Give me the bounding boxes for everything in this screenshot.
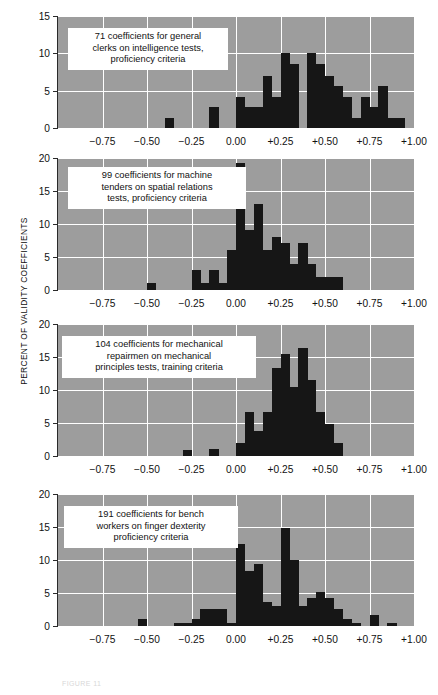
histogram-bar bbox=[236, 97, 245, 128]
x-axis-tick-label: +0.75 bbox=[357, 298, 383, 309]
histogram-bar bbox=[387, 623, 396, 626]
y-axis-tick-label: 10 bbox=[18, 219, 50, 230]
y-axis-tick-label: 5 bbox=[18, 252, 50, 263]
x-axis-tick-label: +0.25 bbox=[268, 634, 294, 645]
panel-callout-label: 71 coefficients for general clerks on in… bbox=[68, 28, 228, 70]
histogram-bar bbox=[298, 606, 307, 626]
gridline-horizontal bbox=[58, 494, 414, 495]
panel-callout-label: 104 coefficients for mechanical repairme… bbox=[62, 336, 256, 378]
y-axis-tick bbox=[53, 91, 58, 92]
histogram-bar bbox=[165, 118, 174, 128]
y-axis-tick bbox=[53, 626, 58, 627]
y-axis-tick bbox=[53, 224, 58, 225]
histogram-bar bbox=[200, 283, 209, 290]
histogram-bar bbox=[325, 424, 334, 456]
x-axis-tick-label: 0.00 bbox=[226, 298, 246, 309]
y-axis-tick bbox=[53, 128, 58, 129]
histogram-bar bbox=[254, 564, 263, 626]
histogram-bar bbox=[183, 450, 192, 456]
histogram-bar bbox=[334, 86, 343, 128]
histogram-bar bbox=[272, 97, 281, 128]
histogram-bar bbox=[192, 619, 201, 626]
histogram-bar bbox=[218, 609, 227, 626]
x-axis-tick-label: +0.50 bbox=[312, 634, 338, 645]
histogram-bar bbox=[236, 544, 245, 626]
gridline-horizontal bbox=[58, 16, 414, 17]
y-axis-spine bbox=[57, 16, 58, 128]
histogram-bar bbox=[298, 348, 307, 456]
histogram-bar bbox=[174, 623, 183, 626]
panel-callout-label: 99 coefficients for machine tenders on s… bbox=[68, 167, 246, 209]
y-axis-tick bbox=[53, 53, 58, 54]
x-axis-tick-label: 0.00 bbox=[226, 634, 246, 645]
histogram-bar bbox=[272, 606, 281, 626]
histogram-bar bbox=[316, 592, 325, 626]
histogram-bar bbox=[289, 64, 298, 128]
histogram-bar bbox=[396, 118, 405, 128]
histogram-bar bbox=[387, 118, 396, 128]
histogram-bar bbox=[298, 243, 307, 290]
x-axis-tick-label: −0.25 bbox=[179, 634, 205, 645]
histogram-bar bbox=[325, 598, 334, 626]
histogram-bar bbox=[245, 107, 254, 128]
y-axis-tick bbox=[53, 456, 58, 457]
histogram-bar bbox=[316, 277, 325, 290]
y-axis-tick bbox=[53, 423, 58, 424]
histogram-bar bbox=[183, 623, 192, 626]
x-axis-tick-label: −0.25 bbox=[179, 136, 205, 147]
y-axis-tick bbox=[53, 494, 58, 495]
x-axis-tick-label: −0.75 bbox=[90, 136, 116, 147]
x-axis-tick-label: −0.25 bbox=[179, 464, 205, 475]
histogram-bar bbox=[254, 431, 263, 456]
y-axis-tick-label: 5 bbox=[18, 85, 50, 96]
x-axis-tick-label: +0.25 bbox=[268, 298, 294, 309]
histogram-bar bbox=[334, 609, 343, 626]
y-axis-tick bbox=[53, 357, 58, 358]
y-axis-tick bbox=[53, 324, 58, 325]
x-axis-tick-label: +0.75 bbox=[357, 136, 383, 147]
histogram-bar bbox=[352, 118, 361, 128]
y-axis-tick-label: 20 bbox=[18, 153, 50, 164]
histogram-bar bbox=[272, 237, 281, 290]
y-axis-tick bbox=[53, 290, 58, 291]
y-axis-tick-label: 15 bbox=[18, 186, 50, 197]
gridline-horizontal bbox=[58, 324, 414, 325]
figure-root: PERCENT OF VALIDITY COEFFICIENTS 051015−… bbox=[0, 0, 438, 695]
x-axis-tick-label: 0.00 bbox=[226, 464, 246, 475]
x-axis-tick-label: −0.50 bbox=[134, 634, 160, 645]
gridline-horizontal bbox=[58, 158, 414, 159]
y-axis-tick bbox=[53, 527, 58, 528]
histogram-bar bbox=[370, 615, 379, 626]
histogram-bar bbox=[200, 609, 209, 626]
x-axis-tick-label: −0.25 bbox=[179, 298, 205, 309]
histogram-bar bbox=[307, 598, 316, 626]
histogram-bar bbox=[254, 204, 263, 290]
histogram-bar bbox=[263, 602, 272, 626]
histogram-bar bbox=[289, 387, 298, 456]
x-axis-tick-label: −0.75 bbox=[90, 464, 116, 475]
x-axis-tick-label: −0.50 bbox=[134, 464, 160, 475]
histogram-bar bbox=[352, 623, 361, 626]
histogram-bar bbox=[227, 250, 236, 290]
histogram-bar bbox=[209, 449, 218, 456]
x-axis-tick-label: +1.00 bbox=[401, 298, 427, 309]
histogram-bar bbox=[245, 571, 254, 626]
y-axis-tick bbox=[53, 16, 58, 17]
x-axis-tick-label: −0.50 bbox=[134, 298, 160, 309]
y-axis-tick bbox=[53, 560, 58, 561]
histogram-bar bbox=[361, 97, 370, 128]
histogram-bar bbox=[263, 76, 272, 128]
panel-callout-label: 191 coefficients for bench workers on fi… bbox=[64, 506, 238, 548]
x-axis-tick-label: +1.00 bbox=[401, 464, 427, 475]
y-axis-tick bbox=[53, 191, 58, 192]
gridline-horizontal bbox=[58, 390, 414, 391]
histogram-bar bbox=[316, 412, 325, 456]
x-axis-tick-label: +0.75 bbox=[357, 464, 383, 475]
x-axis-tick-label: −0.75 bbox=[90, 634, 116, 645]
y-axis-tick-label: 15 bbox=[18, 11, 50, 22]
histogram-bar bbox=[378, 86, 387, 128]
histogram-bar bbox=[281, 53, 290, 128]
x-axis-tick-label: +1.00 bbox=[401, 136, 427, 147]
x-axis-tick-label: +0.25 bbox=[268, 136, 294, 147]
histogram-bar bbox=[307, 264, 316, 290]
